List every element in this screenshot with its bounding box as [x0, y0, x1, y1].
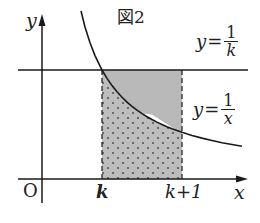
fraction: 1 x — [221, 93, 235, 127]
origin-label: O — [23, 182, 38, 200]
label-y-equals-1-over-k: y = 1 k — [196, 25, 238, 59]
fraction-numerator: 1 — [221, 93, 235, 109]
label-op: = — [207, 33, 222, 51]
y-axis-arrow-icon — [39, 14, 46, 26]
fraction: 1 k — [224, 25, 238, 59]
y-axis-label: y — [26, 11, 37, 30]
label-var: y — [193, 101, 203, 119]
tick-label-k: k — [96, 183, 108, 201]
label-y-equals-1-over-x: y = 1 x — [193, 93, 235, 127]
fraction-denominator: k — [225, 42, 239, 59]
fraction-numerator: 1 — [224, 25, 238, 41]
fraction-denominator: x — [222, 110, 235, 127]
label-var: y — [196, 33, 206, 51]
label-op: = — [204, 101, 219, 119]
tick-label-k-plus-1: k+1 — [165, 183, 202, 201]
figure-2-diagram: 図2 y x O k k+1 y = 1 k y = 1 x — [0, 0, 260, 223]
figure-title: 図2 — [117, 9, 145, 26]
x-axis-label: x — [234, 183, 245, 202]
